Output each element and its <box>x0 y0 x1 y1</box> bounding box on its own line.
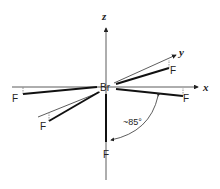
z-axis-label: z <box>101 10 107 22</box>
f-label-bottom: F <box>103 149 109 160</box>
x-axis-label: x <box>202 81 209 93</box>
f-label-right: F <box>183 93 189 104</box>
brf5-diagram: Br F F F F F z y x ~85° <box>0 0 220 189</box>
molecule-svg: Br F F F F F z y x ~85° <box>0 0 220 189</box>
bond-left <box>23 87 97 94</box>
bond-lower-left <box>49 92 99 121</box>
bond-upper-right <box>116 60 169 84</box>
f-label-upper-right: F <box>170 65 176 76</box>
f-label-left: F <box>12 93 18 104</box>
angle-label: ~85° <box>123 117 142 127</box>
y-axis-label: y <box>177 46 184 58</box>
f-label-lower-left: F <box>40 121 46 132</box>
bond-right <box>116 88 183 96</box>
central-atom-label: Br <box>100 82 111 93</box>
